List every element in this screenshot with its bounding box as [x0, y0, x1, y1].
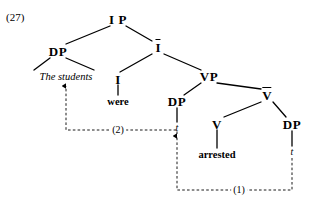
node-ip: I P — [109, 13, 127, 26]
movement-2-label: (2) — [110, 125, 126, 135]
terminal-arrested: arrested — [198, 150, 235, 161]
branch-ip-i-bar — [126, 26, 152, 41]
node-dp-obj: DP — [168, 95, 187, 108]
tree-lines — [0, 0, 315, 208]
trace-obj: t — [176, 123, 179, 133]
node-vp: VP — [200, 70, 219, 83]
branch-dp-subj-ts-left — [34, 58, 50, 70]
branch-i-bar-i-head — [120, 54, 152, 72]
node-i-bar-label: I — [155, 40, 160, 54]
syntax-tree-figure: (27) I PDPIIVPDPVVDPThe studentswerearre… — [0, 0, 315, 208]
branch-i-bar-vp — [164, 54, 201, 70]
terminal-the-students: The students — [40, 72, 93, 83]
branch-dp-subj-ts-right — [66, 58, 94, 70]
branch-v-bar-dp-agent — [273, 102, 286, 117]
node-i-bar: I — [155, 40, 160, 54]
node-v-bar: V — [262, 88, 271, 102]
node-dp-agent: DP — [283, 118, 302, 131]
branch-vp-dp-obj — [184, 83, 201, 95]
movement-1-path — [177, 136, 292, 190]
branch-v-bar-v-head — [224, 102, 261, 117]
node-v-bar-label: V — [262, 88, 271, 102]
terminal-were: were — [107, 97, 128, 108]
node-i-head: I — [115, 73, 121, 86]
branch-lines — [34, 26, 292, 148]
branch-ip-dp-subj — [66, 26, 110, 44]
node-dp-subj: DP — [49, 45, 68, 58]
node-v-head: V — [212, 118, 222, 131]
branch-vp-v-bar — [217, 83, 261, 89]
movement-1-label: (1) — [231, 185, 247, 195]
trace-agent: t — [291, 147, 294, 157]
